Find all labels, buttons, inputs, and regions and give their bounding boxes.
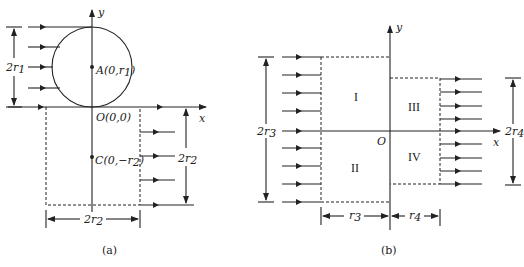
b-y-axis-label: y	[395, 21, 403, 34]
a-point-A	[90, 65, 94, 69]
svg-text:2r3: 2r3	[256, 125, 276, 140]
b-region-II: II	[351, 161, 359, 175]
svg-text:2r2: 2r2	[83, 213, 103, 228]
figure-canvas: y x 2r1 A(0,r1) O(0,0) C(0,−r2)	[0, 0, 524, 267]
a-x-axis-label: x	[199, 112, 206, 125]
a-dimension-2r2-vertical: 2r2	[177, 109, 197, 203]
figure-b: y x O	[256, 21, 524, 257]
a-label-A: A(0,r1)	[95, 64, 135, 79]
b-region-I: I	[354, 90, 358, 104]
a-y-axis-label: y	[97, 6, 105, 19]
svg-text:r4: r4	[409, 209, 421, 224]
svg-text:2r4: 2r4	[504, 125, 524, 140]
b-caption: (b)	[381, 244, 397, 257]
b-dimension-r4: r4	[392, 209, 440, 226]
a-inflow-arrows	[28, 24, 92, 110]
a-dimension-2r2-horizontal: 2r2	[46, 210, 140, 228]
a-caption: (a)	[102, 244, 117, 257]
figure-a: y x 2r1 A(0,r1) O(0,0) C(0,−r2)	[5, 6, 206, 257]
b-region-IV: IV	[408, 150, 421, 164]
b-dimension-2r3: 2r3	[256, 57, 276, 202]
a-dimension-2r1: 2r1	[5, 27, 25, 107]
b-inflow-arrows	[282, 54, 321, 205]
b-dashed-left-region	[321, 57, 390, 202]
a-label-O: O(0,0)	[96, 111, 131, 124]
b-region-III: III	[408, 100, 420, 114]
svg-text:r3: r3	[349, 209, 361, 224]
b-dimension-2r4: 2r4	[504, 78, 524, 185]
svg-text:2r2: 2r2	[177, 152, 197, 167]
svg-text:2r1: 2r1	[5, 61, 25, 76]
a-point-C	[90, 155, 94, 159]
a-label-C: C(0,−r2)	[95, 154, 144, 169]
b-x-axis-label: x	[493, 136, 500, 149]
b-origin-label: O	[377, 135, 386, 148]
b-dimension-r3: r3	[321, 207, 388, 225]
